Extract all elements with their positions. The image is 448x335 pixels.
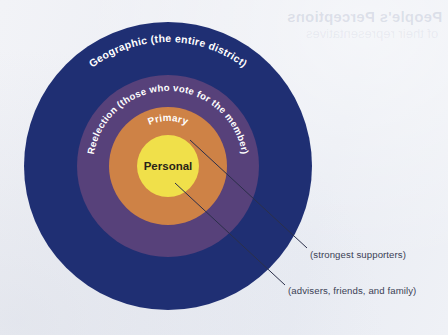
- callout-advisers-friends-family: (advisers, friends, and family): [288, 285, 416, 296]
- callout-strongest-supporters: (strongest supporters): [310, 249, 406, 260]
- ring-label-personal: Personal: [144, 160, 193, 172]
